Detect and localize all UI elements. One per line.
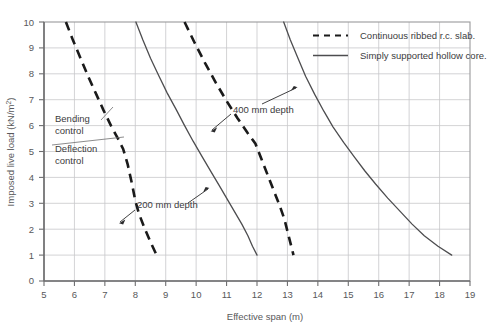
x-tick-label: 13 (282, 289, 293, 300)
annotation-bending-control-line1: Bending (55, 113, 90, 124)
x-tick-label: 19 (465, 289, 476, 300)
x-tick-label: 18 (434, 289, 445, 300)
x-tick-label: 6 (72, 289, 77, 300)
x-tick-label: 17 (404, 289, 415, 300)
y-tick-label: 3 (29, 198, 34, 209)
legend-label-ribbed: Continuous ribbed r.c. slab. (360, 30, 475, 41)
annotation-depth-400: 400 mm depth (233, 104, 294, 115)
y-tick-label: 8 (29, 68, 34, 79)
x-axis-title: Effective span (m) (227, 311, 303, 322)
annotation-bending-control-line2: control (55, 125, 84, 136)
y-tick-label: 4 (29, 172, 34, 183)
x-tick-label: 9 (163, 289, 168, 300)
x-tick-label: 12 (252, 289, 263, 300)
y-tick-label: 6 (29, 120, 34, 131)
legend-label-hollow: Simply supported hollow core. (360, 50, 487, 61)
annotation-depth-200: 200 mm depth (137, 199, 198, 210)
y-axis-title: Imposed live load (kN/m2) (5, 98, 16, 207)
x-tick-label: 15 (343, 289, 354, 300)
chart-figure: 0 1 2 3 4 5 6 7 8 9 10 5 6 7 8 9 10 11 1… (0, 0, 489, 335)
chart-svg: 0 1 2 3 4 5 6 7 8 9 10 5 6 7 8 9 10 11 1… (0, 0, 489, 335)
y-tick-label: 10 (23, 17, 34, 28)
annotation-deflection-control-line2: control (55, 155, 84, 166)
x-tick-label: 11 (222, 289, 232, 300)
x-tick-label: 16 (373, 289, 384, 300)
x-tick-label: 5 (41, 289, 46, 300)
y-tick-label: 7 (29, 94, 34, 105)
x-tick-labels: 5 6 7 8 9 10 11 12 13 14 15 16 17 18 19 (41, 289, 475, 300)
x-tick-label: 14 (313, 289, 324, 300)
x-tick-label: 8 (133, 289, 138, 300)
x-tick-label: 7 (102, 289, 107, 300)
y-tick-label: 5 (29, 146, 34, 157)
x-tick-label: 10 (191, 289, 202, 300)
y-tick-label: 0 (29, 275, 34, 286)
y-tick-label: 1 (29, 250, 34, 261)
y-tick-label: 9 (29, 42, 34, 53)
y-tick-labels: 0 1 2 3 4 5 6 7 8 9 10 (23, 17, 34, 287)
y-tick-label: 2 (29, 224, 34, 235)
annotation-deflection-control-line1: Deflection (55, 143, 97, 154)
